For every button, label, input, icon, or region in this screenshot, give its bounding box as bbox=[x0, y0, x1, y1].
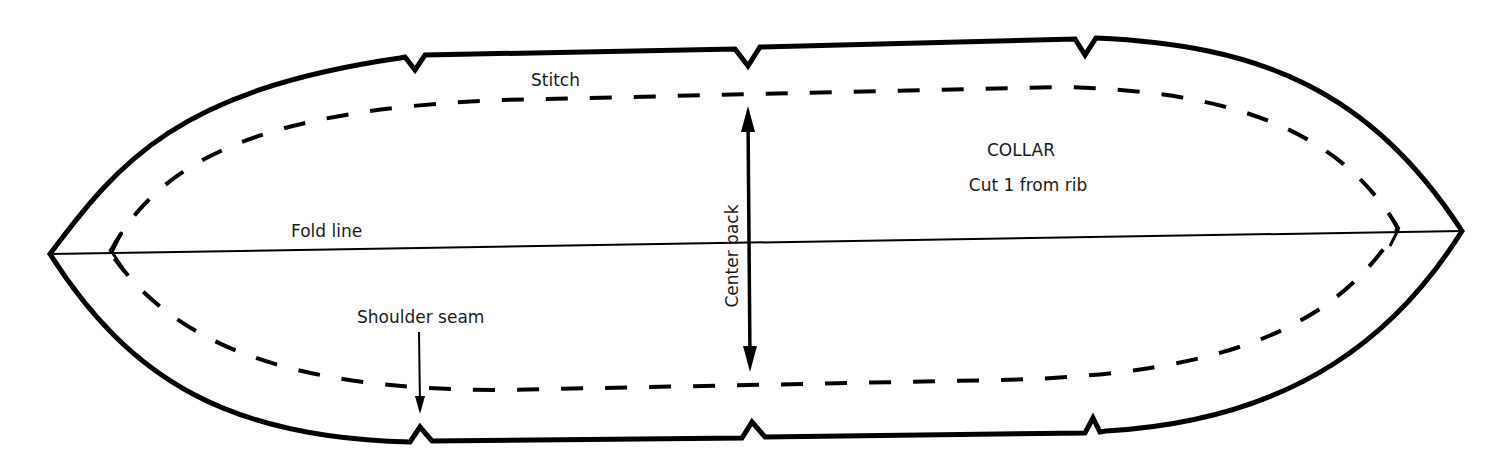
fold-arrow-right-icon bbox=[1390, 215, 1398, 246]
arrowhead-up-icon bbox=[741, 106, 755, 132]
collar-pattern-diagram: Stitch Fold line COLLAR Cut 1 from rib S… bbox=[0, 0, 1505, 463]
arrowhead-down-icon bbox=[743, 346, 757, 372]
shoulder-seam-arrow bbox=[419, 332, 420, 405]
fold-line-label: Fold line bbox=[291, 221, 362, 241]
pattern-outer-edge bbox=[50, 38, 1462, 442]
stitch-label: Stitch bbox=[531, 70, 580, 90]
piece-title: COLLAR bbox=[987, 140, 1055, 160]
arrowhead-down-small-icon bbox=[415, 396, 425, 414]
center-back-label: Center back bbox=[722, 204, 742, 307]
shoulder-seam-label: Shoulder seam bbox=[357, 307, 484, 327]
fold-line bbox=[50, 231, 1462, 254]
cut-instruction: Cut 1 from rib bbox=[969, 175, 1087, 195]
center-back-arrow bbox=[748, 118, 750, 360]
